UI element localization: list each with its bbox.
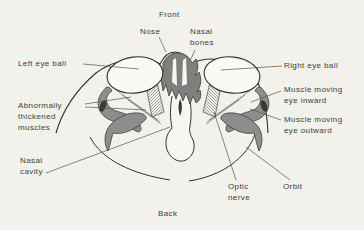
leader-abnormal-muscles-1 (85, 97, 131, 104)
label-outward-line2: eye outward (284, 125, 343, 136)
label-abnormal-line3: muscles (18, 122, 62, 133)
label-muscle-moving-eye-outward: Muscle moving eye outward (284, 114, 343, 136)
label-abnormal-line1: Abnormally (18, 100, 62, 111)
label-right-eye-ball: Right eye ball (284, 60, 338, 71)
label-abnormal-line2: thickened (18, 111, 62, 122)
label-left-eye-ball: Left eye ball (18, 58, 66, 69)
label-optic-line1: Optic (228, 181, 250, 192)
posterior-arc-left (90, 137, 170, 180)
label-front: Front (159, 9, 180, 20)
posterior-arc-right (189, 134, 255, 181)
label-nasal-bones: Nasal bones (190, 26, 214, 48)
label-inward-line1: Muscle moving (284, 84, 343, 95)
label-muscle-moving-eye-inward: Muscle moving eye inward (284, 84, 343, 106)
label-nasal-cavity: Nasal cavity (20, 155, 43, 177)
label-back: Back (158, 208, 177, 219)
orbit-contents-right (202, 54, 269, 151)
anatomy-figure: Front Nose Nasal bones Left eye ball Rig… (0, 0, 364, 230)
label-nasal-cavity-line2: cavity (20, 166, 43, 177)
label-nasal-bones-line2: bones (190, 37, 214, 48)
label-optic-line2: nerve (228, 192, 250, 203)
label-nasal-bones-line1: Nasal (190, 26, 214, 37)
label-nose: Nose (140, 26, 160, 37)
leader-abnormal-muscles-2 (85, 107, 146, 110)
nasal-bones-shape (161, 53, 201, 104)
label-optic-nerve: Optic nerve (228, 181, 250, 203)
leader-nose (159, 37, 166, 52)
label-nasal-cavity-line1: Nasal (20, 155, 43, 166)
label-inward-line2: eye inward (284, 95, 343, 106)
label-abnormally-thickened-muscles: Abnormally thickened muscles (18, 100, 62, 133)
label-outward-line1: Muscle moving (284, 114, 343, 125)
leader-nasal-bones (190, 50, 195, 61)
leader-orbit (246, 147, 290, 180)
label-orbit: Orbit (283, 181, 302, 192)
